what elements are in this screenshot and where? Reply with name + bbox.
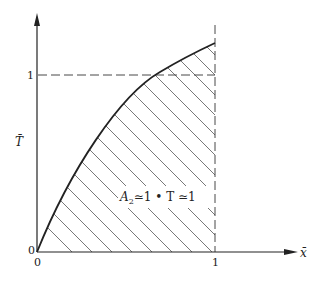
annotation-rest: ≃1 • T ≃1 <box>134 190 196 204</box>
curve <box>37 43 215 252</box>
y-axis-label: T̄ <box>15 134 24 149</box>
x-tick-zero: 0 <box>34 256 41 269</box>
annotation-a: A <box>119 190 129 204</box>
x-axis-arrow-icon <box>284 249 298 255</box>
diagram-canvas: 1 T̄ 0 0 1 x̄ A2≃1 • T ≃1 <box>0 0 312 283</box>
x-tick-one: 1 <box>212 256 219 269</box>
y-axis-arrow-icon <box>34 13 40 26</box>
x-axis-label: x̄ <box>300 246 307 260</box>
y-tick-one: 1 <box>27 69 34 82</box>
hatched-area <box>0 0 312 260</box>
